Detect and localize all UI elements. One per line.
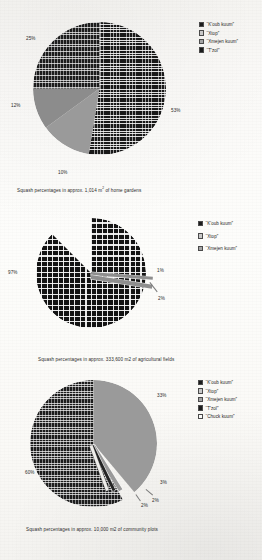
- pie-value-label: 12%: [11, 103, 21, 108]
- pie-value-label: 2%: [141, 503, 148, 508]
- legend-item[interactable]: “Chuck kuum”: [198, 414, 237, 419]
- legend-item[interactable]: “Xmejen kuum”: [198, 246, 237, 251]
- legend-item-label: “T'zol”: [206, 406, 219, 411]
- caption-superscript: 2: [102, 186, 104, 190]
- legend-swatch-icon: [198, 414, 203, 419]
- leader-line: [136, 494, 141, 501]
- legend-swatch-icon: [198, 233, 203, 238]
- legend-item[interactable]: “K'oub kuum”: [198, 380, 237, 385]
- legend-swatch-icon: [198, 388, 203, 393]
- legend-swatch-icon: [198, 246, 203, 251]
- legend-item[interactable]: “T'zol”: [199, 47, 238, 52]
- pie-value-label: 2%: [152, 498, 159, 503]
- legend-item-label: “K'oub kuum”: [206, 221, 234, 226]
- legend-item[interactable]: “T'zol”: [198, 405, 237, 410]
- legend-item[interactable]: “Xmejen kuum”: [199, 39, 238, 44]
- leader-line: [146, 489, 153, 495]
- caption-text-suffix: of home gardens: [105, 188, 141, 193]
- pie-value-label: 97%: [8, 270, 18, 275]
- legend-swatch-icon: [199, 22, 204, 27]
- legend-swatch-icon: [198, 397, 203, 402]
- pie-chart-community-plots: [30, 380, 157, 507]
- figure-caption: Squash percentages in approx. 333,600 m2…: [38, 357, 174, 362]
- figure-agricultural-fields: 97% 1% 2% “K'oub kuum” “Xtop” “Xmejen ku…: [0, 196, 262, 372]
- pie-value-label: 60%: [25, 470, 35, 475]
- pie-value-label: 3%: [160, 480, 167, 485]
- pie-value-label: 10%: [58, 170, 68, 175]
- legend-item-label: “Chuck kuum”: [206, 414, 235, 419]
- pie-value-label: 25%: [26, 36, 36, 41]
- legend-swatch-icon: [199, 30, 204, 35]
- legend-home-gardens: “K'oub kuum” “Xtop” “Xmejen kuum” “T'zol…: [199, 22, 238, 56]
- legend-swatch-icon: [198, 221, 203, 226]
- figure-caption: Squash percentages in approx. 1,014 m2 o…: [17, 186, 141, 193]
- figure-community-plots: 60% 33% 3% 2% 2% “K'oub kuum” “Xtop” “Xm…: [0, 372, 262, 560]
- legend-item-label: “K'oub kuum”: [207, 22, 235, 27]
- legend-swatch-icon: [199, 39, 204, 44]
- legend-agricultural-fields: “K'oub kuum” “Xtop” “Xmejen kuum”: [198, 221, 237, 254]
- pie-chart-home-gardens: [33, 22, 166, 155]
- legend-item-label: “Xmejen kuum”: [206, 246, 238, 251]
- legend-item-label: “T'zol”: [207, 48, 220, 53]
- pie-value-label: 53%: [171, 108, 181, 113]
- legend-item[interactable]: “K'oub kuum”: [198, 221, 237, 226]
- legend-item-label: “Xmejen kuum”: [206, 397, 238, 402]
- legend-swatch-icon: [199, 47, 204, 52]
- legend-item-label: “Xtop”: [207, 31, 220, 36]
- figure-home-gardens: 53% 25% 12% 10% “K'oub kuum” “Xtop” “Xme…: [0, 0, 262, 196]
- pie-value-label: 2%: [158, 296, 165, 301]
- legend-item-label: “Xtop”: [206, 234, 219, 239]
- legend-community-plots: “K'oub kuum” “Xtop” “Xmejen kuum” “T'zol…: [198, 380, 237, 422]
- legend-item-label: “Xtop”: [206, 389, 219, 394]
- legend-item[interactable]: “Xmejen kuum”: [198, 397, 237, 402]
- pie-value-label: 1%: [157, 268, 164, 273]
- legend-swatch-icon: [198, 405, 203, 410]
- caption-text: Squash percentages in approx. 1,014 m: [17, 188, 102, 193]
- legend-item[interactable]: “Xtop”: [199, 30, 238, 35]
- figure-caption: Squash percentages in approx. 10,000 m2 …: [26, 527, 158, 532]
- legend-item-label: “Xmejen kuum”: [207, 39, 239, 44]
- legend-item[interactable]: “Xtop”: [198, 388, 237, 393]
- legend-item[interactable]: “Xtop”: [198, 233, 237, 238]
- legend-item-label: “K'oub kuum”: [206, 380, 234, 385]
- legend-item[interactable]: “K'oub kuum”: [199, 22, 238, 27]
- legend-swatch-icon: [198, 380, 203, 385]
- pie-value-label: 33%: [157, 393, 167, 398]
